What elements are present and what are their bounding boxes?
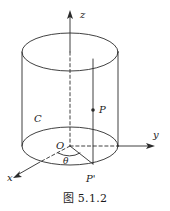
label-curve-c: C <box>34 113 42 124</box>
cylinder-diagram: z y x O P P' C θ <box>0 0 170 211</box>
figure-container: z y x O P P' C θ 图 5.1.2 <box>0 0 170 211</box>
label-point-p-prime: P' <box>85 173 95 184</box>
axis-label-y: y <box>152 129 159 140</box>
label-point-p: P <box>98 104 106 115</box>
label-origin: O <box>56 140 64 151</box>
x-axis-arrowhead <box>13 171 22 178</box>
axis-label-z: z <box>79 9 86 20</box>
figure-caption: 图 5.1.2 <box>0 189 170 205</box>
point-p-marker <box>91 108 95 112</box>
angle-theta-arc <box>58 153 80 156</box>
axis-label-x: x <box>7 172 13 183</box>
label-angle-theta: θ <box>63 156 69 166</box>
radius-o-to-pprime <box>70 146 93 164</box>
x-axis-solid <box>19 162 40 174</box>
